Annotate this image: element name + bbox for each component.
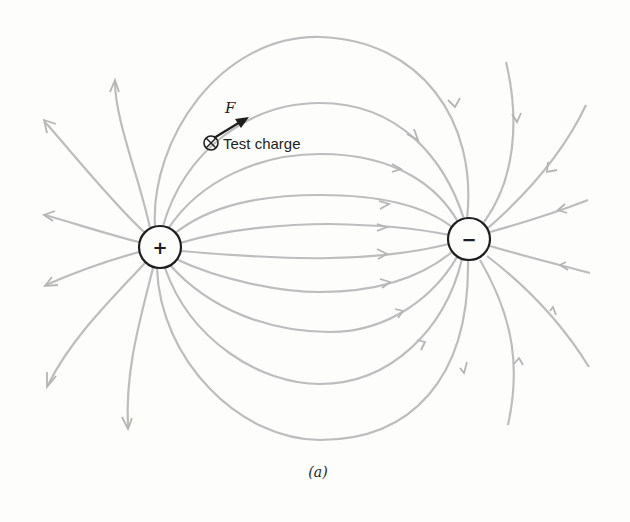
positive-charge: + (139, 226, 181, 268)
field-lines-svg: + − Test charge F (a) (0, 0, 630, 522)
positive-sign: + (152, 237, 167, 258)
force-label: F (224, 99, 236, 117)
outgoing-field-lines (44, 80, 153, 429)
test-charge-label: Test charge (223, 135, 301, 152)
electric-dipole-field-diagram: + − Test charge F (a) (0, 0, 630, 522)
incoming-field-lines (480, 62, 590, 425)
negative-charge: − (448, 218, 490, 260)
negative-sign: − (461, 229, 476, 250)
figure-caption: (a) (308, 464, 327, 480)
connecting-field-lines-top (155, 37, 469, 243)
